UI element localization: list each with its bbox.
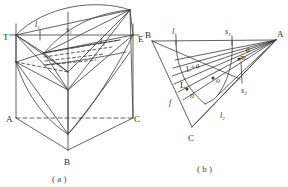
label-b-f: f xyxy=(169,98,173,107)
label-a-B: B xyxy=(64,157,70,167)
label-a-s1: s1 xyxy=(66,25,72,35)
shell-right-long xyxy=(130,10,133,118)
label-b-C: C xyxy=(188,133,194,143)
strip-arc-right xyxy=(218,40,232,95)
shell-ridge xyxy=(16,10,130,35)
label-b-l2: l2 xyxy=(220,111,225,121)
geometry-figure: T l1 s1 l2 A B C E ( a ) xyxy=(0,0,288,187)
upper-rim-curve xyxy=(16,5,130,35)
panel-a-diagram: T l1 s1 l2 A B C E ( a ) xyxy=(0,0,145,187)
label-a-C: C xyxy=(134,114,140,124)
label-b-L: L xyxy=(180,80,186,90)
shell-line-5 xyxy=(44,10,130,53)
panel-b-diagram: B A C l1 s1 l2 s2 L a m n o f L+a ( b ) xyxy=(145,0,288,187)
caption-panel-a: ( a ) xyxy=(52,174,67,184)
label-b-s2: s2 xyxy=(241,86,247,96)
lower-curve-right xyxy=(68,35,133,134)
hidden-generator-2 xyxy=(44,47,112,57)
label-b-region: L+a xyxy=(184,61,201,75)
ray-a-to-c xyxy=(192,40,276,127)
point-n xyxy=(186,88,189,91)
ray-a-4 xyxy=(174,40,276,84)
label-b-n: n xyxy=(190,91,194,100)
cross-line-3 xyxy=(68,10,130,72)
label-a-l1: l1 xyxy=(35,20,40,30)
shell-line-6 xyxy=(68,10,130,90)
ray-b-1 xyxy=(152,41,240,79)
label-b-m: m xyxy=(240,53,246,62)
label-a-l2: l2 xyxy=(100,37,105,47)
label-b-A: A xyxy=(277,29,284,39)
label-a-T: T xyxy=(3,32,9,42)
label-a-edge-right: E xyxy=(138,34,144,44)
label-b-o: o xyxy=(216,76,220,85)
caption-panel-b: ( b ) xyxy=(197,164,212,174)
label-b-s1: s1 xyxy=(225,27,231,37)
segment-s2 xyxy=(241,62,242,83)
triangle-edge-bc xyxy=(152,41,192,127)
label-a-A: A xyxy=(6,114,13,124)
label-b-B: B xyxy=(145,30,151,40)
label-b-l1: l1 xyxy=(172,27,177,37)
triangle-edge-ba xyxy=(152,40,276,41)
lower-curve-right-inner xyxy=(68,52,130,134)
point-o xyxy=(212,77,215,80)
label-b-a: a xyxy=(246,45,250,54)
